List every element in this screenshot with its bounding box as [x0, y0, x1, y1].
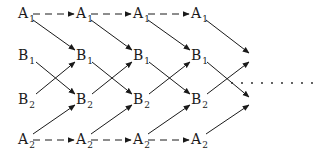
diagram-canvas	[0, 0, 326, 154]
node-a2-col1: A2	[18, 132, 35, 146]
node-b2-col3: B2	[133, 92, 150, 106]
node-a2-col3: A2	[133, 132, 150, 146]
node-a1-col1: A1	[18, 6, 35, 20]
node-b1-col3: B1	[133, 48, 150, 62]
continuation-dots	[231, 82, 313, 84]
node-b1-col4: B1	[191, 48, 208, 62]
node-b2-col2: B2	[76, 92, 93, 106]
node-b2-col1: B2	[18, 92, 35, 106]
node-a2-col4: A2	[191, 132, 208, 146]
node-b2-col4: B2	[191, 92, 208, 106]
node-b1-col2: B1	[76, 48, 93, 62]
node-a2-col2: A2	[76, 132, 93, 146]
node-a1-col2: A1	[76, 6, 93, 20]
node-a1-col4: A1	[191, 6, 208, 20]
node-a1-col3: A1	[133, 6, 150, 20]
node-b1-col1: B1	[18, 48, 35, 62]
